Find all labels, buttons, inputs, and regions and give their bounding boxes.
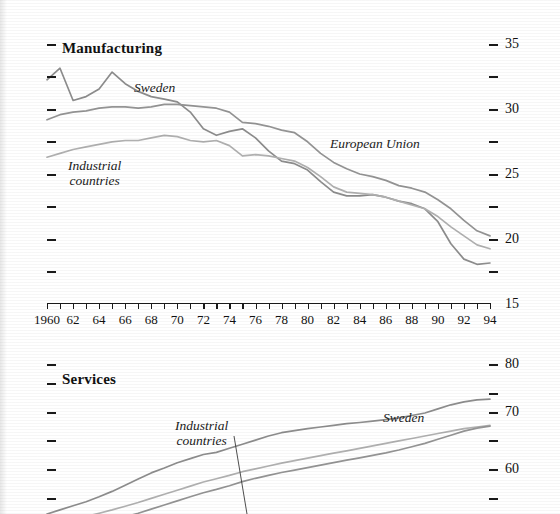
ytick-left-30 xyxy=(47,109,56,111)
x-axis-tick-label: 64 xyxy=(93,312,106,328)
x-axis-tickmark xyxy=(373,303,374,309)
x-axis-tickmark xyxy=(451,303,452,309)
ytick-left-services-60 xyxy=(47,469,56,471)
ytick-left-services-b xyxy=(47,383,56,385)
x-axis-tickmark xyxy=(164,303,165,309)
x-axis-tickmark xyxy=(412,303,413,309)
ytick-label-30: 30 xyxy=(505,101,519,117)
x-axis-tick-label: 62 xyxy=(67,312,80,328)
ytick-label-services-70: 70 xyxy=(505,404,519,420)
x-axis-tickmark xyxy=(282,303,283,309)
x-axis-tickmark xyxy=(190,303,191,309)
panel-manufacturing: Manufacturing 35 30 25 xyxy=(0,0,560,330)
x-axis-tickmark xyxy=(334,303,335,309)
x-axis-tickmark xyxy=(386,303,387,309)
x-axis-tickmark xyxy=(99,303,100,309)
x-axis-tickmark xyxy=(360,303,361,309)
x-axis-tickmark xyxy=(216,303,217,309)
ytick-left-32-5 xyxy=(47,76,56,78)
ytick-right-20 xyxy=(489,239,498,241)
x-axis-tickmark xyxy=(60,303,61,309)
ytick-left-20 xyxy=(47,239,56,241)
x-axis-tick-label: 1960 xyxy=(34,312,60,328)
x-axis-tickmark xyxy=(438,303,439,309)
ytick-label-15: 15 xyxy=(505,296,519,312)
x-axis-tick-label: 86 xyxy=(379,312,392,328)
x-axis-tickmark xyxy=(464,303,465,309)
x-axis-tickmark xyxy=(256,303,257,309)
x-axis-tickmark xyxy=(490,303,491,309)
x-axis-tickmark xyxy=(203,303,204,309)
ytick-label-35: 35 xyxy=(505,36,519,52)
x-axis-tickmark xyxy=(86,303,87,309)
ytick-label-services-80: 80 xyxy=(505,356,519,372)
x-axis-tickmark xyxy=(242,303,243,309)
x-axis-tickmark xyxy=(321,303,322,309)
ytick-left-22-5 xyxy=(47,206,56,208)
x-axis-tick-label: 70 xyxy=(171,312,184,328)
x-axis-tick-label: 82 xyxy=(327,312,340,328)
series-label-line1: Industrial xyxy=(68,158,121,173)
x-axis-tickmark xyxy=(347,303,348,309)
ytick-right-services-65 xyxy=(489,440,498,442)
x-axis-tick-label: 88 xyxy=(405,312,418,328)
x-axis-tick-label: 66 xyxy=(119,312,132,328)
series-label-industrial-countries-manufacturing: Industrial countries xyxy=(68,158,121,188)
x-axis-tick-label: 74 xyxy=(223,312,236,328)
panel-services: Services 80 70 60 xyxy=(0,330,560,514)
ytick-label-services-60: 60 xyxy=(505,461,519,477)
x-axis-tick-label: 90 xyxy=(431,312,444,328)
x-axis-tickmark xyxy=(477,303,478,309)
ytick-left-services-70 xyxy=(47,412,56,414)
ytick-right-services-55 xyxy=(489,498,498,500)
series-line-european-union-services xyxy=(47,426,490,514)
x-axis-tick-label: 80 xyxy=(301,312,314,328)
series-label-line1: Industrial xyxy=(175,418,228,433)
series-label-line2: countries xyxy=(175,433,228,448)
x-axis-tickmark xyxy=(112,303,113,309)
x-axis-tickmark xyxy=(308,303,309,309)
ytick-left-35 xyxy=(47,44,56,46)
ytick-right-25 xyxy=(489,174,498,176)
x-axis-tick-label: 84 xyxy=(353,312,366,328)
ytick-label-20: 20 xyxy=(505,231,519,247)
x-axis-tick-label: 78 xyxy=(275,312,288,328)
x-axis-tick-label: 94 xyxy=(484,312,497,328)
plot-area-services xyxy=(47,358,490,514)
series-label-line2: countries xyxy=(68,173,121,188)
ytick-left-17-5 xyxy=(47,271,56,273)
x-axis-tickmark xyxy=(229,303,230,309)
x-axis-tickmark xyxy=(269,303,270,309)
x-axis-tickmark xyxy=(177,303,178,309)
series-label-sweden-manufacturing: Sweden xyxy=(134,80,175,95)
ytick-left-25 xyxy=(47,174,56,176)
ytick-right-17-5 xyxy=(489,271,498,273)
ytick-left-27-5 xyxy=(47,141,56,143)
ytick-left-services-a xyxy=(47,364,56,366)
series-label-sweden-services: Sweden xyxy=(383,410,424,425)
ytick-label-25: 25 xyxy=(505,166,519,182)
x-axis-tickmark xyxy=(399,303,400,309)
ytick-right-27-5 xyxy=(489,141,498,143)
x-axis-tickmark xyxy=(295,303,296,309)
ytick-right-35 xyxy=(489,44,498,46)
ytick-right-services-70 xyxy=(489,412,498,414)
x-axis-tick-label: 72 xyxy=(197,312,210,328)
figure-root: Manufacturing 35 30 25 xyxy=(0,0,560,514)
x-axis-tick-label: 76 xyxy=(249,312,262,328)
ytick-left-services-55 xyxy=(47,498,56,500)
ytick-left-services-65 xyxy=(47,440,56,442)
x-axis-tickmark xyxy=(125,303,126,309)
x-axis-tick-label: 92 xyxy=(457,312,470,328)
annotation-leader-line-services xyxy=(234,436,247,514)
ytick-right-services-80 xyxy=(489,364,498,366)
ytick-right-services-75 xyxy=(489,393,498,395)
ytick-right-32-5 xyxy=(489,76,498,78)
series-label-industrial-countries-services: Industrial countries xyxy=(175,418,228,448)
x-axis-tick-label: 68 xyxy=(145,312,158,328)
x-axis-tickmark xyxy=(151,303,152,309)
x-axis-tickmark xyxy=(73,303,74,309)
ytick-right-22-5 xyxy=(489,206,498,208)
ytick-right-30 xyxy=(489,109,498,111)
x-axis-tickmark xyxy=(425,303,426,309)
